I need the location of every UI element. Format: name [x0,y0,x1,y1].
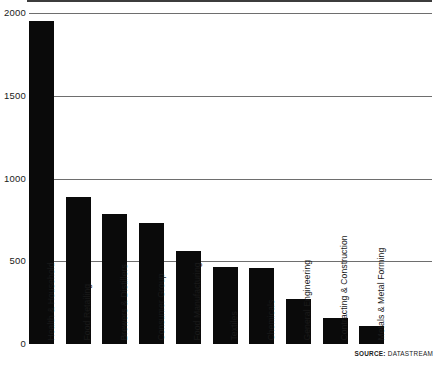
source-value: DATASTREAM [388,350,433,357]
bar-category-label: General Engineering [304,260,313,341]
bar-category-label: Consumer Group [157,274,166,341]
source-label: SOURCE: [355,350,386,357]
bar-category-label: Metals & Metal Forming [377,248,386,341]
bar-category-label: Brewers & Distillers [120,265,129,342]
bar-category-label: Contracting & Construction [341,236,350,341]
bar-category-label: Food Retailing [84,284,93,341]
bar-chart: 0500100015002000 Health & HouseholdFood … [0,0,439,369]
bar-category-label: Textiles [230,312,239,341]
source-note: SOURCE: DATASTREAM [355,350,434,357]
bar-category-label: Chemicals [267,300,276,341]
bars-layer: Health & HouseholdFood RetailingBrewers … [0,0,439,369]
bar-category-label: Health & Household [47,263,56,341]
bar-category-label: Food Manufacturing [194,263,203,341]
